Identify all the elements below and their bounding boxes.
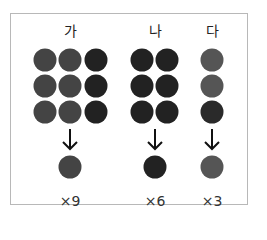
result-dot (144, 156, 167, 179)
down-arrow-icon (203, 128, 221, 152)
input-dot (201, 49, 224, 72)
column-label: 다 (206, 23, 219, 39)
input-dot (34, 101, 57, 124)
input-dot (131, 75, 154, 98)
column-label: 가 (64, 23, 77, 39)
input-dot (131, 49, 154, 72)
input-dot (34, 75, 57, 98)
input-dot (85, 75, 108, 98)
multiplier-label: ×3 (202, 193, 223, 209)
result-dot (59, 156, 82, 179)
column-label: 나 (149, 23, 162, 39)
input-dot (59, 49, 82, 72)
down-arrow-icon (146, 128, 164, 152)
input-dot (85, 101, 108, 124)
input-dot (156, 101, 179, 124)
input-dot (131, 101, 154, 124)
input-dot (156, 49, 179, 72)
input-dot (201, 101, 224, 124)
multiplier-label: ×9 (60, 193, 81, 209)
input-dot (156, 75, 179, 98)
input-dot (85, 49, 108, 72)
input-dot (201, 75, 224, 98)
input-dot (59, 101, 82, 124)
input-dot (34, 49, 57, 72)
result-dot (201, 156, 224, 179)
down-arrow-icon (61, 128, 79, 152)
multiplier-label: ×6 (145, 193, 166, 209)
input-dot (59, 75, 82, 98)
